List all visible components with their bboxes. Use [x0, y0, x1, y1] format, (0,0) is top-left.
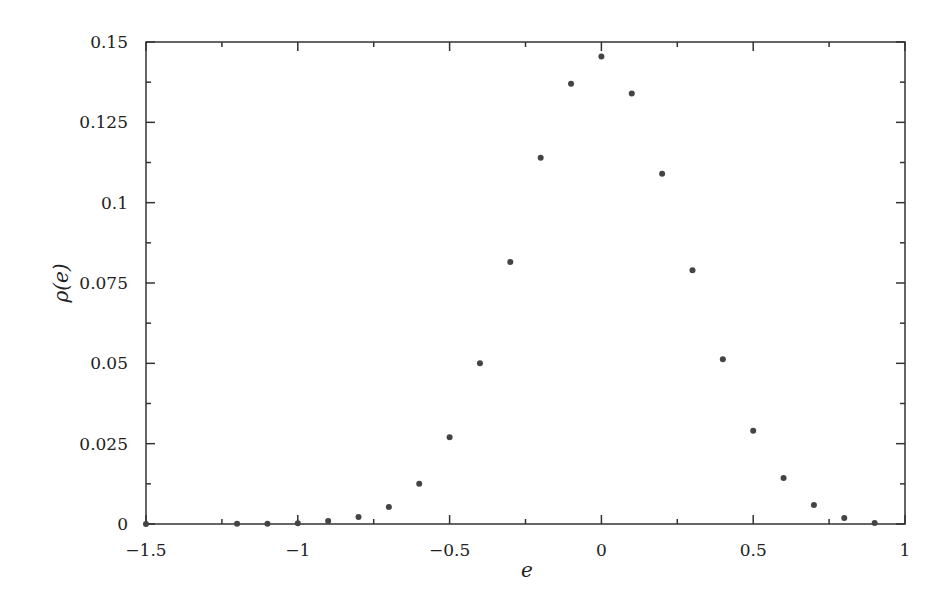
data-point [386, 504, 392, 510]
y-tick-label: 0.075 [79, 273, 128, 293]
x-tick-label: 0 [596, 540, 607, 560]
data-point [507, 259, 513, 265]
data-point [356, 514, 362, 520]
data-point [841, 515, 847, 521]
data-point [750, 428, 756, 434]
data-point [568, 81, 574, 87]
major-ticks [146, 42, 905, 524]
y-axis-tick-labels: 00.0250.050.0750.10.1250.15 [79, 32, 128, 534]
data-point [720, 356, 726, 362]
x-tick-label: −1.5 [125, 540, 166, 560]
data-point [538, 155, 544, 161]
y-tick-label: 0 [117, 514, 128, 534]
y-tick-label: 0.15 [90, 32, 128, 52]
y-tick-label: 0.025 [79, 434, 128, 454]
x-tick-label: 0.5 [740, 540, 767, 560]
y-axis-label: ρ(e) [49, 263, 73, 303]
data-point [143, 521, 149, 527]
y-tick-label: 0.125 [79, 112, 128, 132]
data-point [629, 90, 635, 96]
data-point [264, 521, 270, 527]
data-point [659, 171, 665, 177]
y-tick-label: 0.05 [90, 353, 128, 373]
minor-ticks [146, 42, 905, 524]
data-point [811, 502, 817, 508]
data-points [143, 53, 878, 527]
x-tick-label: −1 [285, 540, 310, 560]
data-point [234, 521, 240, 527]
data-point [325, 518, 331, 524]
data-point [416, 481, 422, 487]
x-axis-tick-labels: −1.5−1−0.500.51 [125, 540, 910, 560]
data-point [689, 267, 695, 273]
plot-frame [146, 42, 905, 524]
x-axis-label: e [521, 558, 533, 582]
data-point [781, 475, 787, 481]
data-point [295, 520, 301, 526]
data-point [447, 434, 453, 440]
data-point [477, 360, 483, 366]
data-point [872, 520, 878, 526]
x-tick-label: 1 [900, 540, 911, 560]
x-tick-label: −0.5 [429, 540, 470, 560]
scatter-chart: −1.5−1−0.500.51 00.0250.050.0750.10.1250… [0, 0, 947, 602]
data-point [598, 53, 604, 59]
y-tick-label: 0.1 [101, 193, 128, 213]
